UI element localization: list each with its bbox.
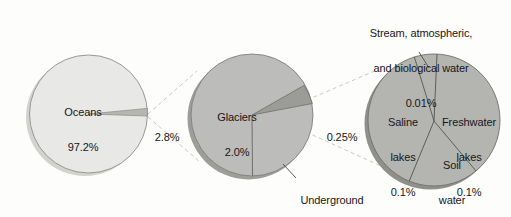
water-distribution-figure: Oceans 97.2% 2.8% Glaciers 2.0% 0.25% Un… xyxy=(0,0,511,217)
label-saline-value: 0.1% xyxy=(378,187,428,199)
label-glaciers-value: 2.0% xyxy=(206,147,268,159)
label-glaciers-name: Glaciers xyxy=(206,112,268,124)
label-other-ocean: 2.8% xyxy=(146,109,188,167)
label-saline-lakes: Saline lakes 0.1% xyxy=(378,94,428,217)
label-soil-name-1: Soil xyxy=(425,160,479,172)
label-stream-name-1: Stream, atmospheric, xyxy=(341,28,501,40)
label-saline-name-2: lakes xyxy=(378,152,428,164)
label-saline-name-1: Saline xyxy=(378,117,428,129)
label-oceans-name: Oceans xyxy=(55,107,111,119)
label-stream-name-2: and biological water xyxy=(341,63,501,75)
label-other-glacier-value: 0.25% xyxy=(318,132,366,144)
label-underground-name-1: Underground xyxy=(288,195,376,207)
label-glaciers: Glaciers 2.0% xyxy=(206,89,268,182)
label-other-ocean-value: 2.8% xyxy=(146,132,188,144)
label-soil-water: Soil water 0.04% xyxy=(425,137,479,217)
label-underground-water: Underground water 0.5% xyxy=(288,172,376,217)
label-oceans: Oceans 97.2% xyxy=(55,84,111,177)
label-soil-name-2: water xyxy=(425,195,479,207)
label-freshwater-name-1: Freshwater xyxy=(434,117,504,129)
label-oceans-value: 97.2% xyxy=(55,142,111,154)
